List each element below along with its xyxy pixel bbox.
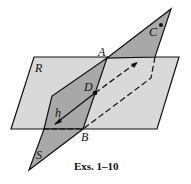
planes-diagram: A B C D R S h Exs. 1–10 <box>0 0 191 184</box>
label-b: B <box>81 130 89 144</box>
plane-s-upper <box>107 9 171 58</box>
figure-caption: Exs. 1–10 <box>74 160 119 172</box>
point-d <box>93 91 98 96</box>
label-plane-r: R <box>34 61 43 75</box>
label-a: A <box>97 45 106 59</box>
point-c <box>159 23 163 27</box>
label-plane-s: S <box>36 148 42 162</box>
label-d: D <box>83 80 93 94</box>
label-c: C <box>149 25 158 39</box>
label-line-h: h <box>55 106 61 120</box>
